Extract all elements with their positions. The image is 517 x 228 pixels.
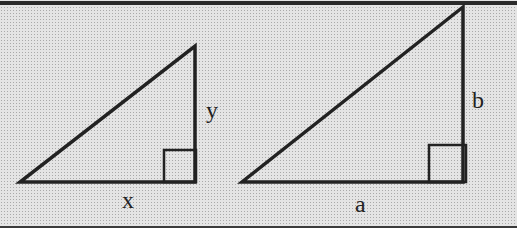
large-triangle-base-label: a — [355, 191, 366, 217]
large-triangle-height-label: b — [472, 87, 484, 113]
similar-triangles-figure: x y a b — [0, 0, 517, 228]
small-triangle-shape — [20, 46, 195, 182]
large-triangle-right-angle-marker — [429, 145, 466, 182]
large-triangle: a b — [242, 7, 484, 217]
small-triangle: x y — [20, 46, 218, 213]
small-triangle-base-label: x — [122, 187, 134, 213]
small-triangle-right-angle-marker — [164, 150, 196, 182]
triangles-diagram: x y a b — [0, 0, 517, 228]
small-triangle-height-label: y — [206, 97, 218, 123]
